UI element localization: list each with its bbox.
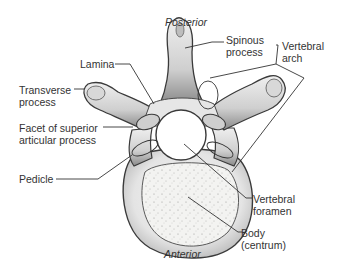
facet-line2: articular process: [19, 134, 98, 146]
vertebra-diagram: Posterior Anterior Spinous process Verte…: [0, 0, 344, 270]
spinous-line2: process: [226, 46, 264, 58]
vertebral-foramen: [156, 110, 206, 160]
foramen-line2: foramen: [253, 205, 295, 217]
foramen-line1: Vertebral: [253, 193, 295, 205]
label-facet: Facet of superior articular process: [19, 122, 98, 146]
label-vertebral-foramen: Vertebral foramen: [253, 193, 295, 217]
label-transverse-process: Transverse process: [19, 84, 71, 108]
arch-line2: arch: [282, 52, 324, 64]
anterior-text: Anterior: [164, 248, 201, 260]
label-body: Body (centrum): [241, 227, 286, 251]
transverse-line1: Transverse: [19, 84, 71, 96]
label-anterior: Anterior: [164, 248, 201, 260]
pedicle-line1: Pedicle: [19, 173, 53, 185]
label-vertebral-arch: Vertebral arch: [282, 40, 324, 64]
facet-line1: Facet of superior: [19, 122, 98, 134]
lamina-line1: Lamina: [80, 58, 114, 70]
arch-line1: Vertebral: [282, 40, 324, 52]
body-line1: Body: [241, 227, 286, 239]
label-spinous-process: Spinous process: [226, 34, 264, 58]
label-lamina: Lamina: [80, 58, 114, 70]
label-posterior: Posterior: [165, 16, 207, 28]
label-pedicle: Pedicle: [19, 173, 53, 185]
spinous-line1: Spinous: [226, 34, 264, 46]
transverse-line2: process: [19, 96, 71, 108]
body-line2: (centrum): [241, 239, 286, 251]
posterior-text: Posterior: [165, 16, 207, 28]
